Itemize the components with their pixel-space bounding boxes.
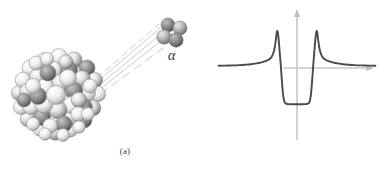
nucleon xyxy=(25,78,40,93)
panel-a-caption: (a) xyxy=(105,146,145,156)
nucleon xyxy=(57,129,70,142)
nucleon xyxy=(39,128,51,140)
alpha-particle-cluster xyxy=(157,18,187,47)
panel-a-graphic xyxy=(0,0,195,171)
nucleon xyxy=(17,93,31,107)
vertical-axis-arrowhead xyxy=(294,9,300,17)
nucleus-cluster xyxy=(11,49,105,142)
potential-energy-chart xyxy=(195,0,389,171)
nucleon xyxy=(83,79,97,93)
alpha-particle-label: α xyxy=(168,48,175,64)
nucleon xyxy=(40,65,56,81)
panel-b-potential-curve: (b) xyxy=(195,0,389,171)
figure-root: α (a) (b) xyxy=(0,0,389,171)
trajectory-line-dashed xyxy=(97,24,159,78)
trajectory-line xyxy=(99,40,162,90)
nucleon xyxy=(59,55,73,69)
alpha-nucleon xyxy=(169,33,183,47)
nucleon xyxy=(82,108,95,121)
vertical-axis xyxy=(294,9,300,140)
emission-trajectory-lines xyxy=(97,24,166,94)
trajectory-line xyxy=(98,34,161,86)
nucleon xyxy=(73,121,85,133)
trajectory-line-dashed xyxy=(100,46,166,94)
nucleon xyxy=(46,85,65,104)
nucleon xyxy=(60,70,77,87)
nucleon xyxy=(26,117,39,130)
trajectory-line xyxy=(97,28,160,82)
panel-a-alpha-emission: α (a) xyxy=(0,0,195,171)
nucleon xyxy=(40,52,53,65)
nucleon xyxy=(71,92,87,108)
